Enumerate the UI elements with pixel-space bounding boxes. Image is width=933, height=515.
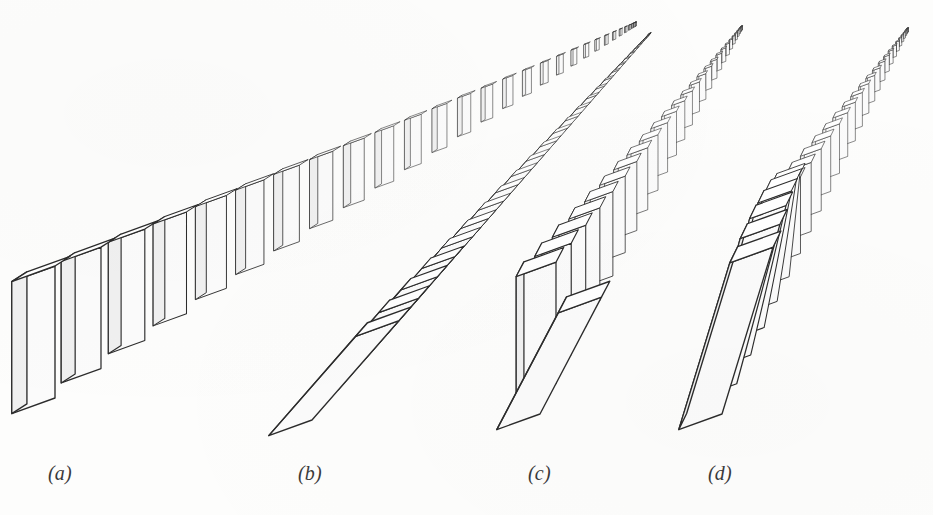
panel-label-a: (a) [48, 462, 72, 485]
domino-row-d [679, 28, 908, 430]
figure-canvas: (a) (b) (c) (d) [0, 0, 933, 515]
domino-perspective-illustration [0, 0, 933, 515]
panel-label-b: (b) [298, 462, 322, 485]
panel-label-d: (d) [708, 462, 732, 485]
panel-label-c: (c) [528, 462, 551, 485]
